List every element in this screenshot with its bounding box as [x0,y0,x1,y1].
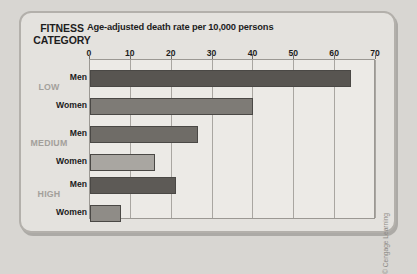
x-axis-tickmark [212,55,213,59]
bar-high-women [90,205,121,222]
x-axis-tickmark [130,55,131,59]
category-label-low: LOW [38,82,59,92]
x-axis-tickmark [375,55,376,59]
x-axis-tickmark [293,55,294,59]
bar-medium-men [90,126,198,143]
bar-row [90,126,376,143]
fitness-category-heading: FITNESS CATEGORY [31,22,93,46]
series-label-men: Men [70,125,87,142]
x-axis-tickmark [252,55,253,59]
series-label-women: Women [56,153,87,170]
bar-row [90,154,376,171]
chart-title: Age-adjusted death rate per 10,000 perso… [87,22,273,32]
x-axis-tick-labels: 010203040506070 [89,45,375,59]
series-label-women: Women [56,97,87,114]
bar-row [90,205,376,222]
x-axis-tickmark [89,55,90,59]
series-label-men: Men [70,69,87,86]
x-axis-tickmark [334,55,335,59]
category-label-medium: MEDIUM [31,138,68,148]
category-label-high: HIGH [38,189,61,199]
x-axis-tickmark [171,55,172,59]
bar-low-men [90,70,351,87]
bar-row [90,177,376,194]
series-label-women: Women [56,204,87,221]
plot-area: 010203040506070 [89,59,375,219]
bar-row [90,70,376,87]
bar-row [90,98,376,115]
bar-medium-women [90,154,155,171]
figure-frame: FITNESS CATEGORY Age-adjusted death rate… [19,11,396,233]
bar-low-women [90,98,253,115]
category-label-column: MenWomenLOWMenWomenMEDIUMMenWomenHIGH [21,59,89,219]
fitness-category-heading-line1: FITNESS [31,22,93,34]
plot-box [89,59,375,219]
bar-high-men [90,177,176,194]
fitness-category-heading-line2: CATEGORY [31,34,93,46]
series-label-men: Men [70,176,87,193]
copyright-credit: © Cengage Learning [382,213,389,274]
